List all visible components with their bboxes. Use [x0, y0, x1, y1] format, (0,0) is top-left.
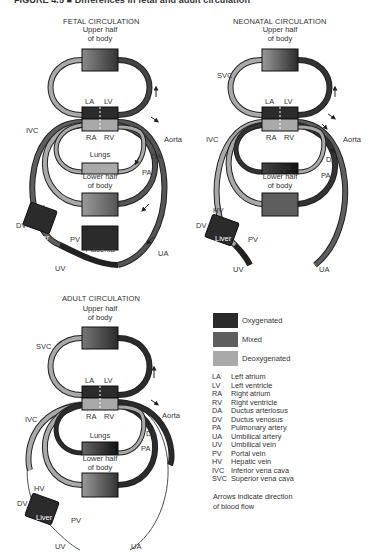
neonatal-circulation-panel: NEONATAL CIRCULATION	[190, 0, 374, 290]
pa-label: PA	[141, 445, 150, 453]
pv-label: PV	[70, 236, 80, 244]
legend-item-oxygenated: Oxygenated	[213, 311, 373, 330]
svc-label: SVC	[217, 72, 232, 80]
panel-title: ADULT CIRCULATION	[62, 294, 140, 303]
rv-label: RV	[104, 413, 114, 421]
fetal-circulation-panel: FETAL CIRCULATION	[0, 0, 190, 290]
upper-body-label: Upper half of body	[262, 26, 298, 42]
rv-label: RV	[104, 134, 114, 142]
lower-body-label: Lower half of body	[256, 173, 304, 189]
lungs-label: Lungs	[262, 164, 298, 172]
ua-label: UA	[131, 543, 141, 551]
oxygenated-swatch	[213, 313, 238, 328]
uv-label: UV	[55, 543, 65, 551]
color-legend: Oxygenated Mixed Deoxygenated	[213, 311, 373, 368]
uv-label: UV	[233, 266, 243, 274]
pa-label: PA	[321, 172, 330, 180]
lower-body-label: Lower half of body	[76, 173, 124, 189]
da-label: DA	[151, 153, 161, 161]
liver-label: Liver	[215, 235, 231, 243]
uv-label: UV	[55, 265, 65, 273]
ra-label: RA	[86, 413, 96, 421]
mixed-swatch	[213, 332, 238, 347]
lower-body-label: Lower half of body	[76, 455, 124, 471]
neonatal-diagram	[190, 0, 374, 290]
aorta-label: Aorta	[343, 136, 361, 144]
hv-label: HV	[34, 204, 44, 212]
dv-label: DV	[196, 222, 206, 230]
ivc-label: IVC	[25, 416, 38, 424]
lv-label: LV	[104, 98, 113, 106]
lv-label: LV	[104, 377, 113, 385]
aorta-label: Aorta	[164, 136, 182, 144]
ivc-label: IVC	[206, 136, 219, 144]
ra-label: RA	[266, 134, 276, 142]
ivc-label: IVC	[26, 127, 39, 135]
upper-body-label: Upper half of body	[82, 26, 118, 42]
deoxygenated-swatch	[213, 351, 238, 366]
la-label: LA	[85, 98, 94, 106]
adult-circulation-panel: ADULT CIRCULATION	[0, 285, 200, 554]
pa-label: PA	[142, 169, 151, 177]
ra-label: RA	[86, 134, 96, 142]
dv-label: DV	[17, 500, 27, 508]
la-label: LA	[85, 377, 94, 385]
legend-item-deoxygenated: Deoxygenated	[213, 349, 373, 368]
placenta-label: Placenta	[80, 246, 120, 254]
da-label: DA	[146, 430, 156, 438]
la-label: LA	[265, 98, 274, 106]
liver-label: Liver	[36, 514, 52, 522]
lungs-label: Lungs	[82, 432, 118, 440]
ua-label: UA	[158, 250, 168, 258]
liver-label: Liver	[33, 234, 49, 242]
da-label: DA	[326, 156, 336, 164]
aorta-label: Aorta	[162, 412, 180, 420]
abbreviation-row: SVCSuperior vena cava	[212, 475, 294, 484]
pv-label: PV	[71, 517, 81, 525]
lv-label: LV	[284, 98, 293, 106]
abbreviation-list: LALeft atrium LVLeft ventricle RARight a…	[212, 373, 294, 484]
rv-label: RV	[284, 134, 294, 142]
svc-label: SVC	[36, 343, 51, 351]
dv-label: DV	[16, 222, 26, 230]
lungs-label: Lungs	[82, 151, 118, 159]
hv-label: HV	[34, 485, 44, 493]
legend-item-mixed: Mixed	[213, 330, 373, 349]
hv-label: HV	[213, 207, 223, 215]
pv-label: PV	[248, 236, 258, 244]
ua-label: UA	[319, 266, 329, 274]
upper-body-label: Upper half of body	[82, 305, 118, 321]
arrow-direction-note: Arrows indicate direction of blood flow	[213, 492, 323, 512]
